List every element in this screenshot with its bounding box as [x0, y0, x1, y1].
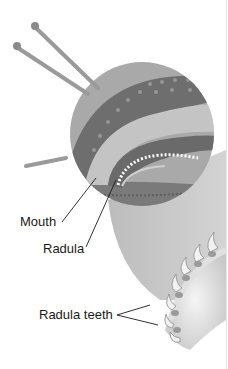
lower-tentacle	[26, 158, 66, 166]
eye-stalk-tip	[31, 22, 39, 30]
diagram-illustration	[0, 0, 228, 369]
label-mouth: Mouth	[20, 215, 56, 228]
tentacles	[18, 28, 98, 94]
page-edge-divider	[226, 0, 227, 369]
eye-stalk-tip	[13, 42, 21, 50]
snail-radula-diagram: Mouth Radula Radula teeth	[0, 0, 228, 369]
label-radula-teeth: Radula teeth	[39, 308, 113, 321]
label-radula: Radula	[43, 242, 84, 255]
